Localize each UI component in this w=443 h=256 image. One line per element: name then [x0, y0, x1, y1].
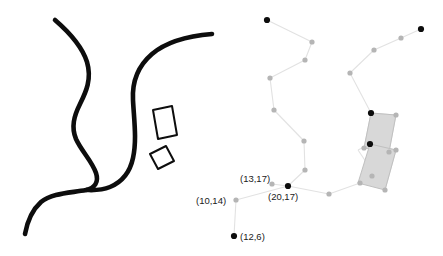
graph-edge — [350, 73, 371, 113]
graph-node-gray[interactable] — [347, 70, 352, 75]
graph-edge — [288, 170, 305, 186]
graph-node-gray[interactable] — [271, 107, 276, 112]
graph-edge — [305, 42, 312, 60]
coord-label-13-17: (13,17) — [240, 173, 270, 184]
outlined-rect-upper — [153, 106, 177, 139]
graph-edge — [304, 141, 305, 170]
graph-node-black[interactable] — [367, 141, 373, 147]
graph-node-black[interactable] — [231, 233, 237, 239]
graph-node-gray[interactable] — [326, 191, 331, 196]
graph-node-gray[interactable] — [269, 181, 274, 186]
coord-label-10-14: (10,14) — [196, 195, 226, 206]
figure-canvas: (13,17)(10,14)(20,17)(12,6) — [0, 0, 443, 256]
graph-edge — [401, 29, 421, 38]
road-curve-east — [86, 34, 212, 190]
graph-node-black[interactable] — [264, 17, 270, 23]
graph-edge — [329, 183, 360, 194]
graph-node-black[interactable] — [285, 183, 291, 189]
graph-node-gray[interactable] — [398, 35, 403, 40]
graph-node-gray[interactable] — [357, 180, 362, 185]
graph-node-gray[interactable] — [309, 39, 314, 44]
graph-node-gray[interactable] — [382, 187, 387, 192]
coord-label-20-17: (20,17) — [268, 191, 298, 202]
graph-node-gray[interactable] — [371, 47, 376, 52]
graph-edge — [350, 50, 374, 73]
diagram-svg: (13,17)(10,14)(20,17)(12,6) — [0, 0, 443, 256]
coord-label-12-6: (12,6) — [240, 231, 265, 242]
graph-node-gray[interactable] — [386, 149, 391, 154]
graph-node-gray[interactable] — [233, 197, 238, 202]
graph-edge — [267, 20, 312, 42]
graph-node-black[interactable] — [368, 110, 374, 116]
graph-node-gray[interactable] — [369, 173, 374, 178]
graph-node-gray[interactable] — [302, 57, 307, 62]
graph-node-black[interactable] — [418, 26, 424, 32]
graph-node-gray[interactable] — [267, 75, 272, 80]
graph-edge — [274, 110, 304, 141]
graph-edge — [270, 78, 274, 110]
graph-node-gray[interactable] — [393, 147, 398, 152]
outlined-rect-lower — [150, 146, 174, 169]
graph-node-gray[interactable] — [393, 112, 398, 117]
graph-node-gray[interactable] — [302, 167, 307, 172]
graph-node-gray[interactable] — [361, 145, 366, 150]
road-curve-west — [25, 20, 97, 234]
graph-edge — [234, 200, 236, 236]
graph-edge — [374, 38, 401, 50]
graph-node-gray[interactable] — [301, 138, 306, 143]
graph-edge — [270, 60, 305, 78]
